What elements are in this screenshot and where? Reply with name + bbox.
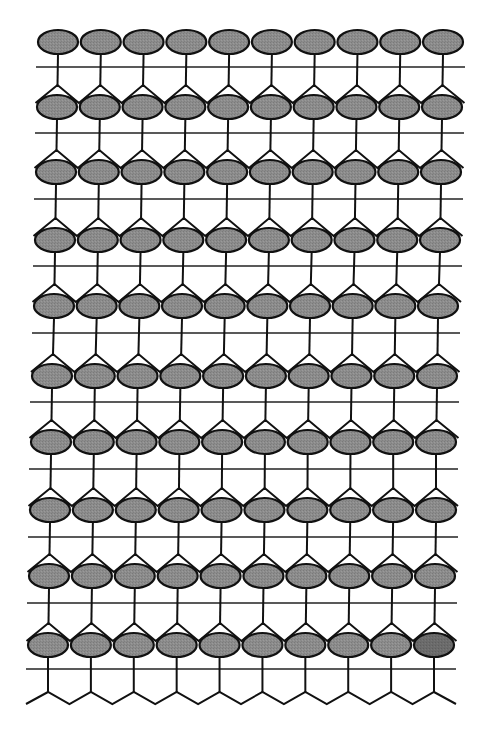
ellipse-node: [38, 30, 78, 54]
ellipse-node: [209, 30, 249, 54]
ellipse-node: [36, 160, 76, 184]
vertical-stem: [357, 54, 358, 85]
ellipse-node: [420, 228, 460, 252]
ellipse-node: [163, 228, 203, 252]
vertical-stem: [137, 388, 138, 420]
vertical-stem: [138, 318, 139, 354]
ellipse-node: [159, 430, 199, 454]
ellipse-node: [35, 228, 75, 252]
zigzag-link: [26, 692, 456, 704]
ellipse-node: [330, 430, 370, 454]
vertical-stem: [134, 588, 135, 623]
vertical-stem: [435, 588, 436, 623]
vertical-stem: [268, 252, 269, 284]
vertical-stem: [229, 54, 230, 85]
ellipse-node: [114, 633, 154, 657]
ellipse-node: [200, 633, 240, 657]
ellipse-node: [123, 95, 163, 119]
vertical-stem: [355, 184, 356, 218]
vertical-stem: [51, 454, 52, 488]
ellipse-node: [331, 364, 371, 388]
ellipse-node: [75, 364, 115, 388]
ellipse-node: [116, 498, 156, 522]
vertical-stem: [180, 388, 181, 420]
vertical-stem: [442, 119, 443, 150]
vertical-stem: [441, 184, 442, 218]
ellipse-node: [166, 30, 206, 54]
ellipse-node: [379, 95, 419, 119]
ellipse-node: [336, 95, 376, 119]
ellipse-node: [293, 160, 333, 184]
ellipse-node: [289, 364, 329, 388]
ellipse-node: [31, 430, 71, 454]
vertical-stem: [50, 522, 51, 554]
ellipse-node: [201, 564, 241, 588]
ellipse-node: [378, 160, 418, 184]
ellipse-node: [249, 228, 289, 252]
ellipse-node: [373, 498, 413, 522]
ellipse-node: [79, 160, 119, 184]
highlighted-ellipse-node: [414, 633, 454, 657]
ellipse-node: [371, 633, 411, 657]
ellipse-node: [72, 564, 112, 588]
ellipse-node: [380, 30, 420, 54]
vertical-stem: [395, 318, 396, 354]
ellipse-node: [423, 30, 463, 54]
vertical-stem: [140, 252, 141, 284]
vertical-stem: [183, 252, 184, 284]
ellipse-node: [247, 294, 287, 318]
ellipse-node: [292, 228, 332, 252]
vertical-stem: [438, 318, 439, 354]
ellipse-nodes: [28, 30, 463, 657]
ellipse-node: [416, 430, 456, 454]
ellipse-node: [205, 294, 245, 318]
ellipse-node: [242, 633, 282, 657]
ellipse-node: [372, 564, 412, 588]
ellipse-node: [251, 95, 291, 119]
vertical-stem: [143, 54, 144, 85]
ellipse-node: [285, 633, 325, 657]
ellipse-node: [330, 498, 370, 522]
vertical-stem: [225, 252, 226, 284]
ellipse-node: [119, 294, 159, 318]
vertical-stem: [394, 388, 395, 420]
vertical-stem: [308, 388, 309, 420]
vertical-stem: [220, 588, 221, 623]
ellipse-node: [28, 633, 68, 657]
ellipse-node: [34, 294, 74, 318]
vertical-stem: [351, 388, 352, 420]
vertical-stem: [52, 388, 53, 420]
ellipse-node: [295, 30, 335, 54]
ellipse-node: [374, 364, 414, 388]
vertical-stem: [400, 54, 401, 85]
ellipse-node: [164, 160, 204, 184]
vertical-stem: [94, 388, 95, 420]
ellipse-node: [115, 564, 155, 588]
ellipse-node: [328, 633, 368, 657]
ellipse-node: [78, 228, 118, 252]
ellipse-node: [375, 294, 415, 318]
ellipse-node: [162, 294, 202, 318]
vertical-stem: [100, 54, 101, 85]
ellipse-node: [117, 430, 157, 454]
ellipse-node: [207, 160, 247, 184]
vertical-stem: [396, 252, 397, 284]
ellipse-node: [329, 564, 369, 588]
vertical-stem: [392, 588, 393, 623]
vertical-stem: [356, 119, 357, 150]
ellipse-node: [159, 498, 199, 522]
vertical-stem: [263, 588, 264, 623]
vertical-stem: [314, 54, 315, 85]
ellipse-node: [286, 564, 326, 588]
ellipse-node: [418, 294, 458, 318]
vertical-stem: [49, 588, 50, 623]
vertical-stem: [393, 522, 394, 554]
ellipse-node: [71, 633, 111, 657]
ellipse-node: [202, 430, 242, 454]
ellipse-node: [157, 633, 197, 657]
ellipse-node: [294, 95, 334, 119]
ellipse-node: [287, 498, 327, 522]
vertical-stem: [98, 184, 99, 218]
vertical-stem: [177, 588, 178, 623]
ellipse-node: [158, 564, 198, 588]
